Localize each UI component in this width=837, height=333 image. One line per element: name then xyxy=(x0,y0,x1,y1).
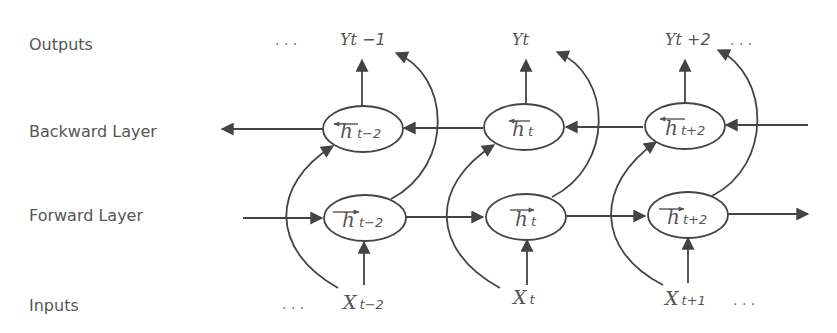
input-x-t: Xt xyxy=(511,286,536,308)
outputs-ellipsis-left: . . . xyxy=(275,32,297,48)
output-y-t+2: Yt +2 xyxy=(665,30,711,49)
output-y-t: Yt xyxy=(512,30,530,49)
input-x-t+1: Xt+1 xyxy=(663,287,706,309)
outputs-ellipsis-right: . . . xyxy=(730,32,752,48)
inputs-ellipsis-left: . . . xyxy=(282,296,304,312)
output-y-t-1: Yt −1 xyxy=(340,30,386,49)
inputs-ellipsis-right: . . . xyxy=(733,292,755,308)
input-x-t-2: Xt−2 xyxy=(341,291,384,313)
birnn-diagram: . . . Yt −1 Yt Yt +2 . . . ht−2 ht ht+2 … xyxy=(0,0,837,333)
